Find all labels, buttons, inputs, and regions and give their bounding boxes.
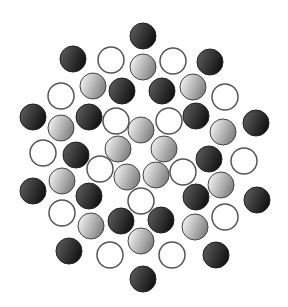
black-circle xyxy=(196,146,222,172)
black-circle xyxy=(63,142,89,168)
white-circle xyxy=(156,108,182,134)
black-circle xyxy=(244,187,270,213)
white-circle xyxy=(103,108,129,134)
gray-circle xyxy=(210,119,236,145)
black-circle xyxy=(183,184,209,210)
white-circle xyxy=(49,200,75,226)
circle-pattern-diagram xyxy=(0,0,288,307)
white-circle xyxy=(231,148,257,174)
white-circle xyxy=(97,242,123,268)
white-circle xyxy=(128,188,154,214)
gray-circle xyxy=(48,115,74,141)
gray-circle xyxy=(105,136,131,162)
black-circle xyxy=(109,78,135,104)
black-circle xyxy=(148,207,174,233)
gray-circle xyxy=(128,228,154,254)
black-circle xyxy=(20,178,46,204)
black-circle xyxy=(130,266,156,292)
black-circle xyxy=(130,23,156,49)
gray-circle xyxy=(180,74,206,100)
black-circle xyxy=(76,104,102,130)
black-circle xyxy=(56,238,82,264)
circle-group xyxy=(20,23,270,292)
gray-circle xyxy=(143,162,169,188)
black-circle xyxy=(203,242,229,268)
white-circle xyxy=(170,159,196,185)
gray-circle xyxy=(80,73,106,99)
white-circle xyxy=(98,47,124,73)
white-circle xyxy=(159,242,185,268)
black-circle xyxy=(243,110,269,136)
gray-circle xyxy=(130,54,156,80)
gray-circle xyxy=(49,168,75,194)
gray-circle xyxy=(114,164,140,190)
gray-circle xyxy=(128,117,154,143)
gray-circle xyxy=(151,136,177,162)
white-circle xyxy=(48,83,74,109)
black-circle xyxy=(149,78,175,104)
white-circle xyxy=(30,140,56,166)
black-circle xyxy=(183,103,209,129)
gray-circle xyxy=(182,214,208,240)
white-circle xyxy=(212,84,238,110)
white-circle xyxy=(160,48,186,74)
white-circle xyxy=(212,204,238,230)
gray-circle xyxy=(208,172,234,198)
black-circle xyxy=(76,183,102,209)
gray-circle xyxy=(78,213,104,239)
diagram-canvas xyxy=(0,0,288,307)
black-circle xyxy=(108,208,134,234)
white-circle xyxy=(87,156,113,182)
black-circle xyxy=(20,104,46,130)
black-circle xyxy=(60,46,86,72)
black-circle xyxy=(197,49,223,75)
